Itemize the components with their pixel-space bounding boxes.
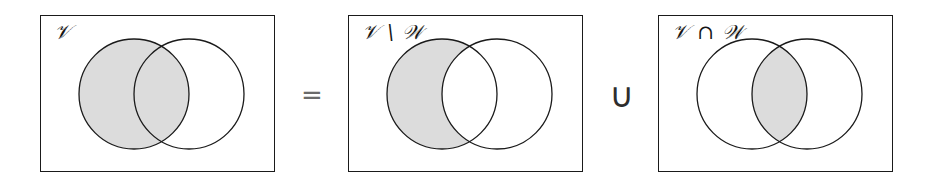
venn-graphic-v (41, 16, 276, 173)
venn-panel-v-intersect-w: 𝒱 ∩ 𝒲 (658, 15, 893, 172)
operator-equals: = (276, 0, 348, 190)
panel-label-v: 𝒱 (54, 22, 72, 42)
venn-panel-v: 𝒱 (40, 15, 275, 172)
venn-panel-v-minus-w: 𝒱 \ 𝒲 (348, 15, 583, 172)
panel-label-v-intersect-w: 𝒱 ∩ 𝒲 (672, 22, 744, 42)
panel-label-v-minus-w: 𝒱 \ 𝒲 (362, 22, 424, 42)
venn-diagram-figure: 𝒱 = 𝒱 \ 𝒲 ∪ (0, 0, 940, 190)
operator-union: ∪ (586, 0, 658, 190)
